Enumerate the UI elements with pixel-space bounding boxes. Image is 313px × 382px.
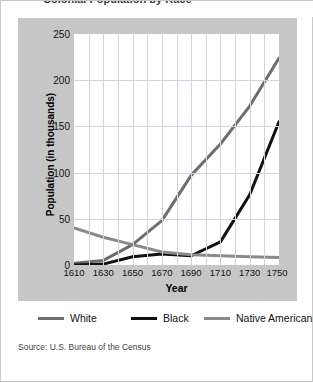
legend-swatch-native-american <box>204 317 230 320</box>
gridline-v-1650 <box>133 34 134 265</box>
x-tick-1610: 1610 <box>63 267 84 278</box>
gridline-v-1630 <box>103 34 104 265</box>
x-axis-tick-labels: 1610 1630 1650 1670 1690 1710 1730 1750 <box>74 267 279 281</box>
legend-row: White Black Native American <box>18 309 297 327</box>
x-tick-1690: 1690 <box>181 267 202 278</box>
gridline-v-1690 <box>191 34 192 265</box>
y-tick-150: 150 <box>53 121 70 132</box>
gridline-v-1710 <box>220 34 221 265</box>
legend-swatch-white <box>38 317 64 320</box>
gridline-v-1730 <box>250 34 251 265</box>
x-tick-1630: 1630 <box>93 267 114 278</box>
x-tick-1730: 1730 <box>239 267 260 278</box>
page-title: Colonial Population by Race <box>43 1 192 5</box>
x-tick-1750: 1750 <box>266 267 287 278</box>
legend-label-native-american: Native American <box>236 312 312 324</box>
x-tick-1650: 1650 <box>122 267 143 278</box>
chart-figure: Colonial Population by Race Population (… <box>0 0 313 382</box>
chart-panel: Population (in thousands) 0 50 100 150 2… <box>18 18 297 301</box>
gridline-v-1680 <box>177 34 178 265</box>
y-tick-100: 100 <box>53 167 70 178</box>
plot-area <box>74 34 279 265</box>
chart-legend: White Black Native American <box>18 301 297 335</box>
legend-item-black[interactable]: Black <box>131 312 189 324</box>
gridline-v-1670 <box>162 34 163 265</box>
y-tick-50: 50 <box>59 213 70 224</box>
gridline-v-1640 <box>118 34 119 265</box>
y-tick-200: 200 <box>53 75 70 86</box>
y-axis-tick-labels: 0 50 100 150 200 250 <box>18 34 70 265</box>
legend-label-white: White <box>70 312 97 324</box>
gridline-v-1660 <box>147 34 148 265</box>
y-tick-250: 250 <box>53 29 70 40</box>
legend-label-black: Black <box>163 312 189 324</box>
gridline-v-1740 <box>264 34 265 265</box>
chart-title-strip: Colonial Population by Race <box>1 1 313 17</box>
legend-item-native-american[interactable]: Native American <box>204 312 312 324</box>
legend-item-white[interactable]: White <box>38 312 97 324</box>
legend-swatch-black <box>131 317 157 320</box>
gridline-v-1720 <box>235 34 236 265</box>
x-axis-title: Year <box>74 282 279 294</box>
gridline-v-1620 <box>89 34 90 265</box>
gridline-v-1700 <box>206 34 207 265</box>
source-note: Source: U.S. Bureau of the Census <box>18 342 297 352</box>
x-tick-1670: 1670 <box>151 267 172 278</box>
x-tick-1710: 1710 <box>210 267 231 278</box>
